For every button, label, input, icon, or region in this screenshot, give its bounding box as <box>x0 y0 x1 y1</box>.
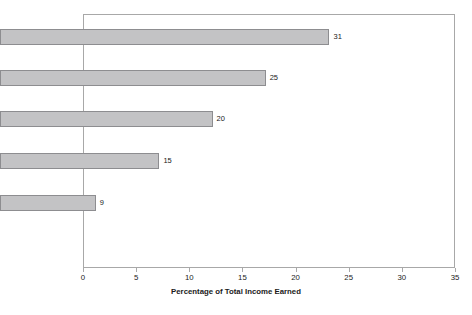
x-tick-mark <box>349 268 350 272</box>
bar-third-quintile[interactable] <box>0 111 213 127</box>
x-tick-label: 30 <box>398 274 407 282</box>
x-tick-mark <box>242 268 243 272</box>
x-tick-label: 15 <box>238 274 247 282</box>
bar-value-label: 25 <box>270 74 278 82</box>
bar-second-quintile[interactable] <box>0 153 159 169</box>
x-tick-mark <box>296 268 297 272</box>
x-tick-mark <box>136 268 137 272</box>
x-tick-label: 35 <box>451 274 460 282</box>
bar-richest-quintile[interactable] <box>0 29 329 45</box>
bar-value-label: 20 <box>217 115 225 123</box>
x-tick-mark <box>83 268 84 272</box>
bar-chart: Richest Quintile Fourth Quintile Third Q… <box>0 0 472 315</box>
x-tick-label: 5 <box>134 274 138 282</box>
x-tick-label: 10 <box>185 274 194 282</box>
x-tick-label: 0 <box>81 274 85 282</box>
bar-fourth-quintile[interactable] <box>0 70 266 86</box>
bar-value-label: 15 <box>163 157 171 165</box>
x-tick-label: 25 <box>344 274 353 282</box>
bar-value-label: 31 <box>333 33 341 41</box>
x-tick-label: 20 <box>291 274 300 282</box>
x-tick-mark <box>189 268 190 272</box>
bar-poorest-quintile[interactable] <box>0 195 96 211</box>
bar-value-label: 9 <box>100 199 104 207</box>
plot-area <box>83 14 455 268</box>
x-tick-mark <box>402 268 403 272</box>
x-axis-title: Percentage of Total Income Earned <box>0 288 472 296</box>
x-tick-mark <box>455 268 456 272</box>
